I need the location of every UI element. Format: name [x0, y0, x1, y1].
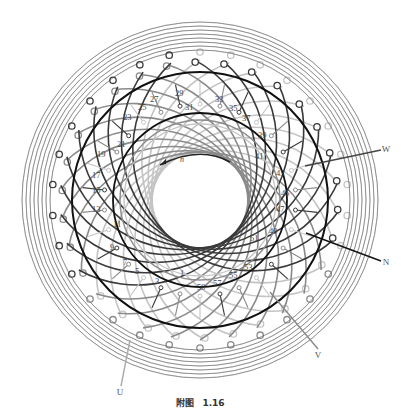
- joint-dot: [107, 228, 111, 232]
- slot-number: 13: [92, 204, 101, 214]
- coil-lead-terminal: [327, 150, 333, 156]
- lead-wire: [295, 210, 317, 212]
- joint-dot: [178, 104, 182, 108]
- rotation-label: n: [180, 155, 184, 164]
- winding-diagram: 1357911131517192123252729313335373941434…: [0, 0, 401, 414]
- joint-dot: [281, 246, 285, 250]
- slot-number: 57: [213, 278, 222, 288]
- joint-dot: [281, 150, 285, 154]
- slot-number: 11: [113, 219, 121, 229]
- joint-dot: [127, 262, 131, 266]
- lead-wire: [283, 141, 302, 152]
- slot-number: 15: [92, 185, 101, 195]
- slot-number: 17: [92, 170, 101, 180]
- coil-lead-terminal: [221, 61, 227, 67]
- slot-number: 9: [110, 242, 114, 252]
- slot-number: 23: [123, 112, 132, 122]
- terminal-label-n: N: [383, 257, 390, 267]
- caption-number: 1.16: [202, 398, 224, 408]
- joint-dot: [159, 286, 163, 290]
- slot-number: 41: [255, 151, 264, 161]
- joint-dot: [237, 110, 241, 114]
- lead-wire: [295, 188, 317, 190]
- joint-dot: [142, 276, 146, 280]
- joint-dot: [198, 294, 202, 298]
- figure-caption: 附图1.16: [0, 396, 401, 409]
- terminal-label-w: W: [382, 144, 391, 154]
- coil-lead-terminal: [296, 101, 302, 107]
- slot-number: 25: [138, 102, 147, 112]
- phase-coils-dark: [22, 22, 378, 378]
- joint-dot: [269, 134, 273, 138]
- coil-lead-terminal: [192, 59, 198, 65]
- slot-number: 29: [175, 88, 184, 98]
- joint-dot: [254, 120, 258, 124]
- joint-dot: [107, 168, 111, 172]
- slot-number: 21: [117, 139, 126, 149]
- slot-number: 59: [197, 282, 206, 292]
- slot-number: 55: [229, 270, 238, 280]
- joint-dot: [103, 188, 107, 192]
- coil-lead-terminal: [274, 82, 280, 88]
- joint-dot: [289, 168, 293, 172]
- slot-number: 31: [185, 102, 194, 112]
- joint-dot: [289, 228, 293, 232]
- joint-dot: [198, 102, 202, 106]
- joint-dot: [142, 120, 146, 124]
- joint-dot: [293, 208, 297, 212]
- joint-dot: [254, 276, 258, 280]
- slot-number: 19: [97, 149, 106, 159]
- joint-dot: [269, 262, 273, 266]
- winding-grid-ring: [22, 22, 378, 378]
- caption-prefix: 附图: [176, 398, 194, 408]
- coil-lead-terminal: [330, 235, 336, 241]
- joint-dot: [218, 292, 222, 296]
- slot-number: 43: [276, 168, 285, 178]
- coil-lead-terminal: [335, 206, 341, 212]
- joint-dot: [115, 246, 119, 250]
- joint-dot: [127, 134, 131, 138]
- slot-number: 37: [242, 113, 251, 123]
- winding-grid-ring: [22, 22, 378, 378]
- lead-wire: [239, 288, 248, 308]
- joint-dot: [103, 208, 107, 212]
- joint-dot: [237, 286, 241, 290]
- joint-dot: [115, 150, 119, 154]
- slot-number: 47: [276, 204, 285, 214]
- slot-number: 1: [180, 268, 184, 278]
- coil-lead-terminal: [314, 124, 320, 130]
- terminal-label-v: V: [315, 350, 322, 360]
- coil-lead-terminal: [249, 69, 255, 75]
- coil-lead-terminal: [334, 178, 340, 184]
- winding-grid-ring: [22, 22, 378, 378]
- slot-number: 53: [244, 262, 253, 272]
- slot-number: 5: [135, 266, 139, 276]
- slot-number: 3: [155, 276, 159, 286]
- joint-dot: [218, 104, 222, 108]
- slot-number: 51: [250, 233, 259, 243]
- slot-number: 49: [269, 226, 278, 236]
- slot-number: 33: [215, 94, 224, 104]
- slot-number: 39: [258, 130, 267, 140]
- joint-dot: [159, 110, 163, 114]
- slot-number: 45: [281, 188, 290, 198]
- slot-number: 7: [123, 257, 127, 267]
- joint-dot: [293, 188, 297, 192]
- joint-dot: [178, 292, 182, 296]
- phase-coils-mid: [22, 22, 378, 378]
- slot-number: 27: [150, 94, 159, 104]
- slot-number: 35: [229, 103, 238, 113]
- phase-coils-light: [22, 22, 378, 378]
